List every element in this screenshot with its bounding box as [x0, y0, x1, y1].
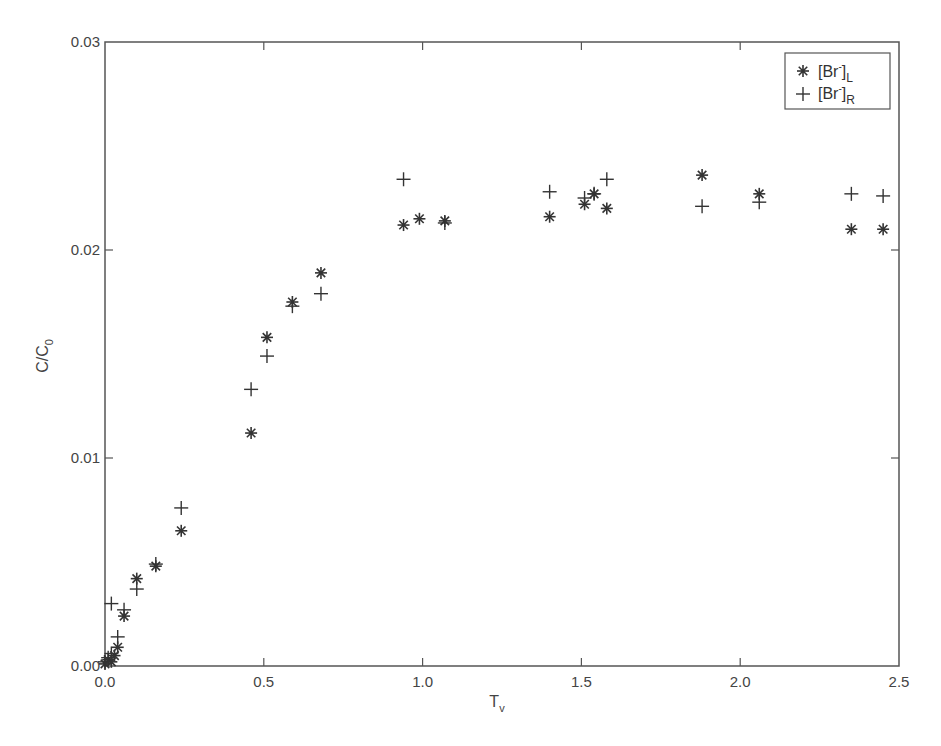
- legend: [Br-]L [Br-]R: [785, 53, 890, 109]
- y-tick-label: 0.02: [71, 241, 100, 258]
- x-axis-ticks: 0.00.51.01.52.02.5: [95, 42, 910, 690]
- asterisk-marker-icon: [797, 65, 809, 77]
- y-tick-label: 0.00: [71, 657, 100, 674]
- series-plus: [98, 172, 890, 669]
- scatter-chart: 0.00.51.01.52.02.5 0.000.010.020.03 Tv C…: [0, 0, 941, 746]
- y-axis-ticks: 0.000.010.020.03: [71, 33, 899, 674]
- data-points: [98, 169, 890, 670]
- series-asterisk: [99, 169, 889, 670]
- x-tick-label: 1.5: [571, 673, 592, 690]
- y-axis-label: C/C0: [34, 339, 55, 373]
- x-axis-label: Tv: [489, 693, 505, 714]
- plot-frame: [105, 42, 899, 666]
- x-tick-label: 0.0: [95, 673, 116, 690]
- y-tick-label: 0.03: [71, 33, 100, 50]
- x-tick-label: 0.5: [253, 673, 274, 690]
- x-tick-label: 2.5: [889, 673, 910, 690]
- x-tick-label: 1.0: [412, 673, 433, 690]
- y-tick-label: 0.01: [71, 449, 100, 466]
- x-tick-label: 2.0: [730, 673, 751, 690]
